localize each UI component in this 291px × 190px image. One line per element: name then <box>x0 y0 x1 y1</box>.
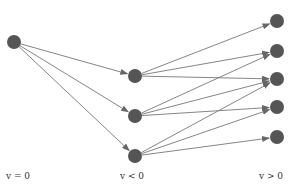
edge-m3-r4 <box>142 110 270 154</box>
node-r2 <box>270 44 284 58</box>
node-m1 <box>128 69 142 83</box>
edge-m1-r1 <box>142 24 270 74</box>
flow-graph <box>0 0 291 190</box>
node-r5 <box>270 130 284 144</box>
node-m3 <box>128 149 142 163</box>
edge-s-m1 <box>21 44 128 74</box>
label-v-positive: v > 0 <box>259 171 283 181</box>
node-s <box>7 35 21 49</box>
edge-s-m2 <box>20 46 128 112</box>
edge-m3-r3 <box>141 83 270 153</box>
node-m2 <box>128 109 142 123</box>
node-r1 <box>270 14 284 28</box>
edge-m2-r4 <box>142 108 269 116</box>
edge-m1-r3 <box>142 76 269 79</box>
edge-m2-r3 <box>142 81 269 114</box>
node-r3 <box>270 72 284 86</box>
label-v-negative: v < 0 <box>120 171 144 181</box>
node-r4 <box>270 100 284 114</box>
edge-s-m3 <box>19 47 129 151</box>
label-v-zero: v = 0 <box>6 171 30 181</box>
